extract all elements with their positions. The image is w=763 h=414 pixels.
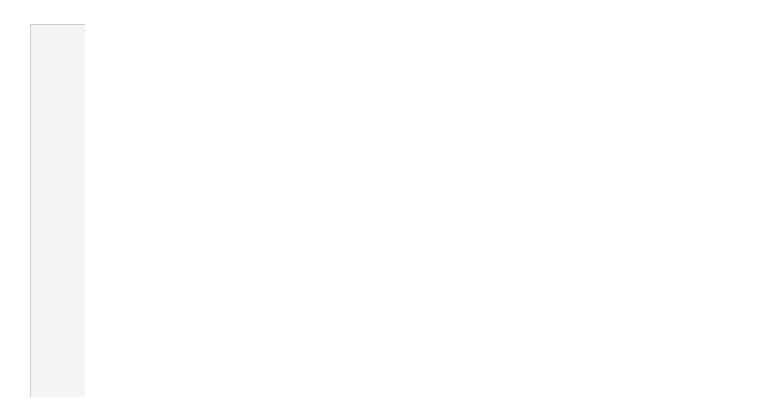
eeg-trace-plot[interactable] <box>0 0 763 414</box>
eeg-viewer <box>0 0 763 414</box>
